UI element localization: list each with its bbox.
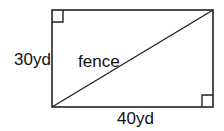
right-angle-marker-bottom-right — [202, 95, 213, 107]
bottom-side-length-label: 40yd — [117, 110, 154, 127]
diagonal-fence-line — [52, 10, 213, 107]
left-side-length-label: 30yd — [14, 51, 51, 68]
right-angle-marker-top-left — [52, 10, 63, 22]
diagonal-fence-label: fence — [78, 53, 120, 70]
